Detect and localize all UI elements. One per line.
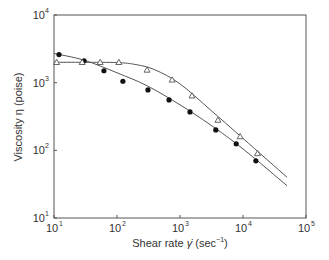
x-tick-label: 10 [298, 222, 310, 234]
data-point-circle [187, 109, 192, 114]
data-point-circle [101, 68, 106, 73]
data-point-circle [234, 141, 239, 146]
data-point-circle [213, 127, 218, 132]
data-point-circle [56, 52, 61, 57]
y-tick-exponent: 2 [45, 142, 49, 149]
fit-curves [54, 53, 287, 185]
data-point-circle [145, 87, 150, 92]
y-tick-exponent: 4 [45, 7, 49, 14]
data-point-circle [120, 79, 125, 84]
y-tick-label: 10 [33, 144, 45, 156]
y-tick-label: 10 [33, 212, 45, 224]
y-tick-label: 10 [33, 9, 45, 21]
y-tick-label: 10 [33, 77, 45, 89]
x-axis-label: Shear rate γ̇ (sec−1) [132, 236, 227, 249]
y-tick-exponent: 1 [45, 210, 49, 217]
data-points [54, 52, 261, 163]
plot-frame [54, 15, 306, 218]
x-tick-label: 10 [109, 222, 121, 234]
x-tick-label: 10 [172, 222, 184, 234]
data-point-circle [166, 97, 171, 102]
x-tick-exponent: 1 [59, 220, 63, 227]
axis-ticks: 101102103104105101102103104 [33, 7, 315, 234]
y-axis-label: Viscosity η (poise) [12, 72, 24, 161]
x-tick-label: 10 [46, 222, 58, 234]
y-tick-exponent: 3 [45, 75, 49, 82]
data-point-triangle [116, 59, 122, 64]
viscosity-chart: 101102103104105101102103104 Viscosity η … [0, 0, 329, 260]
x-tick-label: 10 [235, 222, 247, 234]
fit-curve [54, 53, 287, 185]
x-tick-exponent: 4 [248, 220, 252, 227]
data-point-circle [253, 158, 258, 163]
x-tick-exponent: 5 [311, 220, 315, 227]
x-tick-exponent: 2 [122, 220, 126, 227]
x-tick-exponent: 3 [185, 220, 189, 227]
